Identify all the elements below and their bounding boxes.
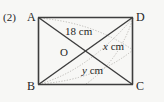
variable-y: y xyxy=(82,64,87,76)
vertex-label-d: D xyxy=(136,11,145,23)
measurement-label-18cm: 18 cm xyxy=(65,26,92,37)
unit-y: cm xyxy=(90,64,103,76)
vertex-label-a: A xyxy=(27,11,36,23)
vertex-label-c: C xyxy=(136,80,144,92)
problem-number: (2) xyxy=(3,12,16,23)
measurement-label-y-cm: y cm xyxy=(82,65,103,76)
measurement-label-x-cm: x cm xyxy=(103,41,124,52)
center-point-label-o: O xyxy=(60,47,68,58)
unit-x: cm xyxy=(111,40,124,52)
variable-x: x xyxy=(103,40,108,52)
vertex-label-b: B xyxy=(27,80,35,92)
geometry-figure: (2) A D B C O 18 cm x cm y cm xyxy=(0,0,164,102)
